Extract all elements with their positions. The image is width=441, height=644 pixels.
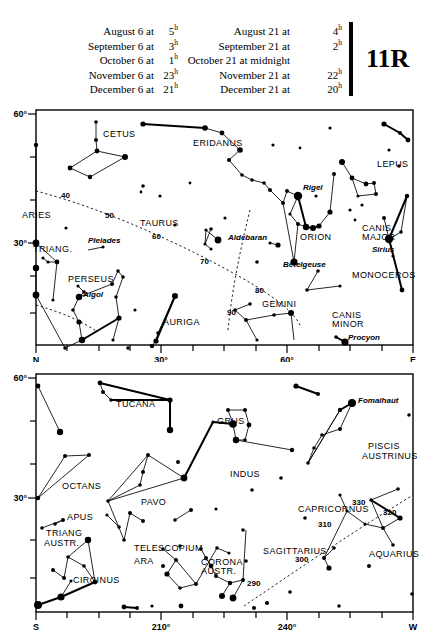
star-marker — [176, 460, 180, 464]
constellation-label: ARIES — [22, 210, 51, 220]
constellation-label: TUCANA — [116, 399, 155, 409]
star-marker — [194, 582, 198, 586]
star-marker — [400, 288, 405, 293]
star-marker — [215, 237, 222, 244]
star-marker — [33, 292, 40, 299]
constellation-label: AURIGA — [163, 317, 200, 327]
star-name-label: Aldebaran — [227, 233, 267, 242]
x-axis-tick-label: N — [33, 355, 40, 362]
star-marker — [76, 294, 82, 300]
header: August 6 at5hSeptember 6 at3hOctober 6 a… — [0, 0, 441, 108]
star-marker — [244, 559, 248, 563]
star-marker — [211, 420, 214, 423]
star-marker — [156, 331, 160, 335]
date-right-row: August 21 at4h — [186, 24, 342, 39]
ecliptic-degree-label: 80 — [255, 286, 264, 295]
star-name-label: Sirius — [372, 245, 395, 254]
ecliptic-degree-label: 40 — [61, 191, 70, 200]
date-left-row: December 6 at21h — [38, 82, 178, 97]
constellation-label: PERSEUS — [68, 274, 114, 284]
constellation-label: GRUS — [217, 416, 245, 426]
star-marker — [126, 346, 130, 350]
ecliptic-degree-label: 310 — [318, 520, 332, 529]
star-marker — [53, 522, 57, 526]
star-marker — [220, 131, 225, 136]
star-marker — [290, 448, 294, 452]
date-left-time: 21h — [154, 82, 178, 97]
star-marker — [356, 194, 359, 197]
star-marker — [122, 538, 126, 542]
star-marker — [252, 606, 256, 610]
star-marker — [167, 427, 173, 433]
star-marker — [227, 158, 231, 162]
star-marker — [410, 592, 414, 596]
star-marker — [328, 126, 331, 129]
ecliptic-degree-label: 50 — [105, 211, 114, 220]
star-marker — [34, 601, 42, 609]
x-axis-tick-label: 210° — [152, 622, 171, 632]
constellation-label: MAJOR — [362, 232, 396, 242]
star-marker — [406, 138, 411, 143]
ecliptic-degree-label: 300 — [295, 555, 309, 564]
star-marker — [202, 125, 208, 131]
star-marker — [105, 513, 108, 516]
star-marker — [316, 223, 321, 228]
date-left-label: November 6 at — [89, 68, 154, 83]
star-marker — [288, 212, 291, 215]
x-axis-tick-label: 240° — [278, 622, 297, 632]
date-left-label: August 6 at — [103, 24, 154, 39]
plate-number: 11R — [366, 44, 409, 74]
date-left-time: 3h — [154, 39, 178, 54]
date-left-time-unit: h — [174, 53, 178, 62]
star-marker — [354, 219, 357, 222]
star-marker — [288, 590, 292, 594]
star-marker — [88, 175, 92, 179]
date-left-row: November 6 at23h — [38, 68, 178, 83]
star-marker — [34, 143, 38, 147]
star-marker — [399, 230, 403, 234]
star-marker — [382, 216, 386, 220]
lower-x-ticks — [36, 612, 413, 620]
star-marker — [332, 546, 336, 550]
star-marker — [334, 335, 338, 339]
star-marker — [98, 381, 103, 386]
star-marker — [310, 225, 316, 231]
y-axis-tick-label: 30° — [13, 238, 27, 248]
star-marker — [122, 605, 127, 610]
date-left-row: September 6 at3h — [38, 39, 178, 54]
star-marker — [36, 496, 40, 500]
star-marker — [265, 601, 269, 605]
star-marker — [299, 147, 302, 150]
star-marker — [189, 182, 192, 185]
date-right-time-unit: h — [338, 82, 342, 91]
x-axis-tick-label: 60° — [280, 355, 294, 362]
star-marker — [95, 149, 100, 154]
star-marker — [106, 499, 110, 503]
star-marker — [233, 437, 239, 443]
upper-sky-chart: CETUSERIDANUSLEPUSARIESTAURUSORIONCANISM… — [0, 104, 441, 362]
star-name-label: Algol — [82, 290, 104, 299]
star-marker — [117, 525, 121, 529]
star-marker — [181, 475, 188, 482]
chart-panel-upper: CETUSERIDANUSLEPUSARIESTAURUSORIONCANISM… — [0, 104, 441, 362]
star-marker — [364, 182, 369, 187]
star-marker — [146, 453, 150, 457]
star-marker — [360, 203, 363, 206]
star-marker — [85, 537, 91, 543]
constellation-label: AUSTR. — [44, 538, 79, 548]
star-marker — [172, 293, 178, 299]
star-marker — [128, 511, 132, 515]
star-name-label: Betelgeuse — [283, 260, 326, 269]
lower-chart-labels: TUCANAGRUSPISCISAUSTRINUSOCTANSINDUSPAVO… — [13, 373, 419, 632]
star-marker — [250, 488, 254, 492]
star-marker — [51, 568, 55, 572]
date-left-time: 23h — [154, 68, 178, 83]
star-marker — [101, 390, 105, 394]
star-marker — [116, 315, 121, 320]
star-marker — [204, 228, 207, 231]
star-marker — [94, 138, 98, 142]
star-marker — [350, 176, 355, 181]
star-marker — [337, 604, 341, 608]
star-marker — [189, 508, 193, 512]
constellation-label: CIRCINUS — [73, 575, 120, 585]
